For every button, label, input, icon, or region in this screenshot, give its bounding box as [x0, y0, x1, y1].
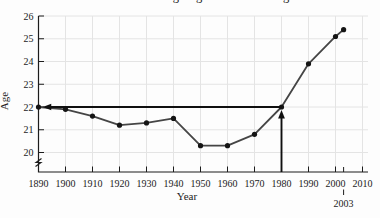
x-tick-label-1950: 1950 — [191, 178, 211, 189]
chart-canvas: 1890190019101920193019401950196019701980… — [0, 0, 380, 218]
y-tick-label-25: 25 — [24, 33, 34, 44]
up-arrowhead — [278, 110, 285, 119]
data-point-1940 — [171, 116, 176, 121]
x-tick-label-1970: 1970 — [245, 178, 265, 189]
chart-title: Average Age at First Marriage — [143, 0, 295, 3]
data-point-1960 — [225, 143, 230, 148]
data-point-1970 — [252, 132, 257, 137]
data-point-1930 — [144, 120, 149, 125]
data-point-1890 — [36, 104, 41, 109]
axis-layer — [36, 16, 369, 172]
y-tick-label-23: 23 — [24, 79, 34, 90]
x-tick-label-1990: 1990 — [299, 178, 319, 189]
data-point-2000 — [333, 34, 338, 39]
x-tick-label-1910: 1910 — [83, 178, 103, 189]
tick-label-layer: 1890190019101920193019401950196019701980… — [24, 11, 373, 209]
data-line — [39, 30, 344, 146]
y-axis-label: Age — [0, 92, 10, 110]
x-axis-label: Year — [177, 190, 198, 202]
x-tick-label-1890: 1890 — [29, 178, 49, 189]
x-tick-label-1980: 1980 — [272, 178, 292, 189]
callout-2003-label: 2003 — [334, 198, 354, 209]
data-point-1910 — [90, 114, 95, 119]
data-point-2003 — [341, 27, 346, 32]
data-point-1990 — [306, 61, 311, 66]
x-tick-label-2010: 2010 — [353, 178, 373, 189]
left-arrowhead — [43, 104, 52, 111]
x-tick-label-1920: 1920 — [110, 178, 130, 189]
x-tick-label-1900: 1900 — [56, 178, 76, 189]
x-tick-label-1940: 1940 — [164, 178, 184, 189]
annotation-layer — [43, 104, 285, 172]
data-point-1950 — [198, 143, 203, 148]
x-tick-label-2000: 2000 — [326, 178, 346, 189]
axes-lines — [39, 16, 369, 172]
y-tick-label-22: 22 — [24, 102, 34, 113]
y-tick-label-26: 26 — [24, 11, 34, 22]
x-tick-label-1960: 1960 — [218, 178, 238, 189]
y-tick-label-21: 21 — [24, 124, 34, 135]
line-chart-figure: 1890190019101920193019401950196019701980… — [0, 0, 380, 218]
y-tick-label-24: 24 — [24, 56, 34, 67]
grid-layer — [39, 16, 369, 172]
data-point-1920 — [117, 123, 122, 128]
x-tick-label-1930: 1930 — [137, 178, 157, 189]
y-tick-label-20: 20 — [24, 147, 34, 158]
